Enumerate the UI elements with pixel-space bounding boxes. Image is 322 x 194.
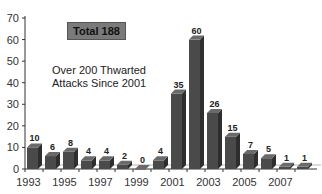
- data-label: 0: [140, 155, 145, 165]
- x-tick-label: 2007: [268, 176, 292, 188]
- bar-side: [236, 133, 240, 169]
- bar: [261, 158, 272, 169]
- bar: [207, 113, 218, 169]
- bar-side: [200, 36, 204, 169]
- data-label: 2: [122, 151, 127, 161]
- x-tick-label: 2003: [196, 176, 220, 188]
- data-label: 35: [173, 80, 183, 90]
- bar-top: [135, 165, 150, 169]
- x-tick-label: 2001: [160, 176, 184, 188]
- data-label: 8: [68, 138, 73, 148]
- bar: [99, 160, 110, 169]
- data-label: 26: [209, 99, 219, 109]
- data-label: 4: [104, 146, 109, 156]
- y-tick-label: 70: [7, 12, 19, 24]
- bar-side: [182, 90, 186, 170]
- y-tick-label: 40: [7, 77, 19, 89]
- data-label: 6: [50, 142, 55, 152]
- bar: [45, 156, 56, 169]
- y-tick-label: 20: [7, 120, 19, 132]
- bar: [189, 40, 200, 169]
- bar: [279, 167, 290, 169]
- bar-side: [218, 109, 222, 169]
- data-label: 4: [86, 146, 91, 156]
- data-label: 1: [302, 153, 307, 163]
- y-tick-label: 60: [7, 34, 19, 46]
- x-tick-label: 2005: [232, 176, 256, 188]
- x-tick-label: 1993: [16, 176, 40, 188]
- data-label: 4: [158, 146, 163, 156]
- x-tick-label: 1995: [52, 176, 76, 188]
- data-label: 60: [191, 26, 201, 36]
- bar: [27, 147, 38, 169]
- data-label: 1: [284, 153, 289, 163]
- bar: [81, 160, 92, 169]
- data-label: 10: [29, 133, 39, 143]
- data-label: 15: [227, 123, 237, 133]
- bar-side: [38, 143, 42, 169]
- data-label: 5: [266, 144, 271, 154]
- bar: [135, 169, 146, 170]
- bar: [225, 137, 236, 169]
- x-tick-label: 1999: [124, 176, 148, 188]
- bar: [297, 167, 308, 169]
- bar: [117, 165, 128, 169]
- bar: [171, 94, 182, 170]
- y-tick-label: 50: [7, 55, 19, 67]
- y-tick-label: 30: [7, 98, 19, 110]
- bar: [153, 160, 164, 169]
- y-tick-label: 10: [7, 141, 19, 153]
- bar-chart: 0102030405060701068442043560261575111993…: [0, 0, 322, 194]
- bar: [243, 154, 254, 169]
- data-label: 7: [248, 140, 253, 150]
- y-tick-label: 0: [13, 163, 19, 175]
- x-tick-label: 1997: [88, 176, 112, 188]
- thwarted-attacks-annotation: Over 200 Thwarted Attacks Since 2001: [52, 64, 146, 90]
- bar: [63, 152, 74, 169]
- total-annotation-box: Total 188: [67, 22, 126, 40]
